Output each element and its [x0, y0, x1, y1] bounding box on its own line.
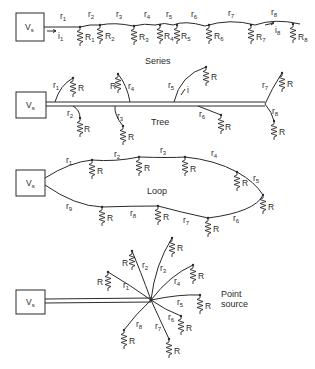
- label-r6: r6: [233, 213, 240, 224]
- svg-text:R1: R1: [85, 32, 95, 43]
- label-r7: r7: [262, 80, 269, 91]
- tree-panel: Vs R r1 R r2 R r3 R r4 R r5 i R r6: [16, 66, 293, 145]
- branch-r2: [132, 251, 151, 300]
- label-r4: r4: [128, 81, 135, 92]
- segment-r8: r8: [271, 7, 278, 18]
- label-r1: r1: [66, 155, 73, 166]
- segment-r2: r2: [88, 9, 95, 20]
- resistor-R2: R2: [97, 24, 115, 44]
- load-R: R: [128, 132, 134, 142]
- branch-r5: [174, 67, 206, 102]
- label-r2: r2: [142, 260, 149, 271]
- resistor-R8: R8: [290, 23, 308, 43]
- segment-r4: r4: [144, 9, 151, 20]
- label-r3: r3: [117, 111, 124, 122]
- load-R: R: [279, 127, 285, 137]
- label-r7: r7: [183, 215, 190, 226]
- svg-text:R6: R6: [214, 31, 224, 42]
- load-R: R: [186, 323, 192, 333]
- load-R: R: [129, 336, 135, 346]
- point-source-caption-line1: Point: [221, 289, 242, 299]
- label-r3: r3: [160, 145, 167, 156]
- label-r8: r8: [136, 319, 143, 330]
- load-R: R: [144, 163, 150, 173]
- resistor-R7: R7: [248, 24, 266, 44]
- load-R: R: [110, 81, 116, 91]
- tree-caption: Tree: [151, 117, 169, 127]
- tree-trunk: [46, 102, 265, 106]
- load-R: R: [225, 122, 231, 132]
- load-R: R: [163, 212, 169, 222]
- loop-panel: Vs R R R R R R R R r1 r2 r3 r4 r5 r6 r7 …: [16, 145, 274, 237]
- label-r5: r5: [177, 297, 184, 308]
- label-r4: r4: [211, 148, 218, 159]
- label-r9: r9: [66, 201, 73, 212]
- load-R: R: [205, 301, 211, 311]
- load-R: R: [190, 164, 196, 174]
- load-R: R: [287, 79, 293, 89]
- label-r8: r8: [130, 208, 137, 219]
- current-i1: i1: [58, 31, 64, 42]
- svg-text:R7: R7: [256, 32, 266, 43]
- label-r5: r5: [168, 80, 175, 91]
- label-r5: r5: [253, 173, 260, 184]
- load-R: R: [174, 346, 180, 356]
- series-caption: Series: [145, 56, 171, 66]
- load-R: R: [107, 213, 113, 223]
- label-r1: r1: [53, 80, 60, 91]
- segment-r6: r6: [191, 9, 198, 20]
- segment-r1: r1: [60, 11, 67, 22]
- resistor-R5: R5: [174, 24, 191, 44]
- branch-r1: [108, 272, 151, 300]
- load-R: R: [177, 243, 183, 253]
- load-R: R: [268, 202, 274, 212]
- segment-r3: r3: [116, 9, 123, 20]
- load-R: R: [122, 258, 128, 268]
- point-feeder: [45, 298, 151, 303]
- svg-text:R8: R8: [298, 32, 308, 43]
- label-r1: r1: [123, 280, 130, 291]
- distribution-network-diagram: Vs i1 r1 r2 r3 r4 r5 r6 r7 r8 i8 R1 R2 R…: [0, 0, 315, 369]
- load-R: R: [198, 271, 204, 281]
- label-r3: r3: [160, 263, 167, 274]
- label-r8: r8: [272, 106, 279, 117]
- load-R: R: [242, 178, 248, 188]
- load-R: R: [97, 166, 103, 176]
- series-panel: Vs i1 r1 r2 r3 r4 r5 r6 r7 r8 i8 R1 R2 R…: [16, 7, 308, 66]
- resistor-R6: R6: [206, 24, 224, 44]
- segment-r5: r5: [166, 9, 173, 20]
- load-R: R: [78, 83, 84, 93]
- branch-r2: [73, 106, 80, 118]
- label-r6: r6: [168, 312, 175, 323]
- label-r4: r4: [174, 276, 181, 287]
- resistor-R4: R4: [157, 24, 174, 44]
- svg-text:R5: R5: [181, 31, 191, 42]
- current-i8: i8: [275, 25, 281, 36]
- load-R: R: [97, 277, 103, 287]
- current-arrow-icon: [47, 30, 56, 33]
- load-R: R: [84, 124, 90, 134]
- resistor-R1: R1: [77, 26, 95, 46]
- segment-r7: r7: [228, 8, 235, 19]
- current-arrow-icon: [181, 89, 185, 95]
- branch-r5: [151, 295, 200, 300]
- label-r2: r2: [114, 149, 121, 160]
- series-feeder-line: [44, 21, 300, 27]
- label-r6: r6: [199, 109, 206, 120]
- point-source-caption-line2: source: [221, 299, 248, 309]
- load-R: R: [211, 72, 217, 82]
- label-r2: r2: [67, 108, 74, 119]
- svg-text:R2: R2: [105, 31, 115, 42]
- svg-text:R4: R4: [164, 31, 174, 42]
- load-R: R: [213, 224, 219, 234]
- point-source-panel: Vs R r1 R r2 R r3 R r4 R r5 R r6: [16, 237, 248, 358]
- current-i: i: [187, 85, 189, 95]
- loop-caption: Loop: [147, 186, 167, 196]
- resistor-R3: R3: [131, 25, 149, 45]
- svg-text:R3: R3: [139, 32, 149, 43]
